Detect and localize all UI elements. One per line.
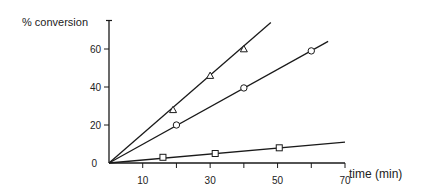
series-triangle	[109, 22, 271, 163]
square-marker	[160, 154, 166, 160]
x-tick-label: 50	[272, 175, 284, 186]
series-square	[109, 142, 345, 163]
y-axis-label: % conversion	[22, 16, 88, 28]
square-marker	[276, 145, 282, 151]
square-marker	[212, 151, 218, 157]
series-circle	[109, 41, 328, 163]
circle-marker	[308, 48, 314, 54]
y-tick-label: 40	[90, 82, 102, 93]
trend-line	[109, 142, 345, 163]
circle-marker	[241, 85, 247, 91]
conversion-chart: 103050700204060 % conversion time (min)	[0, 0, 430, 196]
circle-marker	[173, 122, 179, 128]
x-tick-label: 10	[137, 175, 149, 186]
trend-line	[109, 41, 328, 163]
y-tick-label: 0	[91, 158, 97, 169]
series-layer	[109, 22, 345, 163]
y-tick-label: 60	[90, 44, 102, 55]
x-axis-label: time (min)	[349, 167, 402, 181]
y-tick-label: 20	[90, 120, 102, 131]
x-tick-label: 30	[205, 175, 217, 186]
trend-line	[109, 22, 271, 163]
